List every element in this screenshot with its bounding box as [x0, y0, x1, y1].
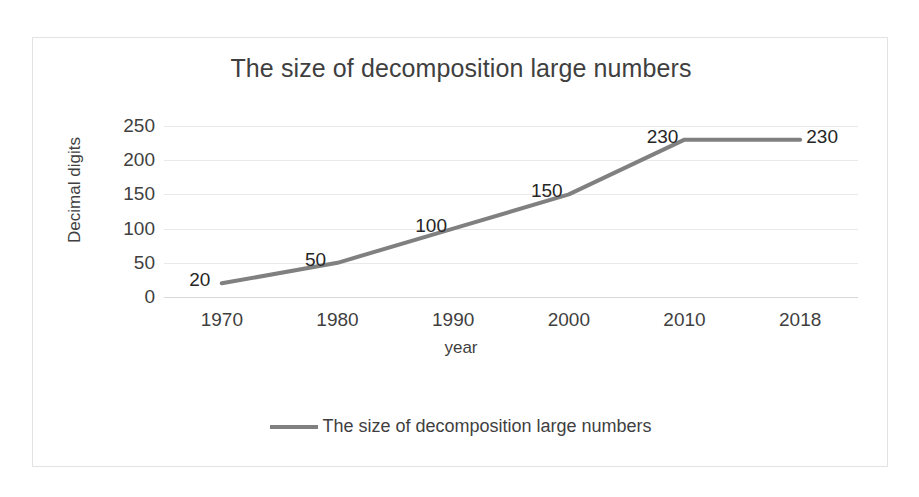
y-axis-title: Decimal digits — [65, 110, 85, 270]
x-axis-tick-label: 2000 — [548, 309, 590, 331]
chart-title: The size of decomposition large numbers — [33, 54, 889, 83]
x-axis-line — [164, 297, 858, 298]
data-point-label: 50 — [305, 249, 326, 271]
y-axis-tick-label: 250 — [123, 115, 155, 137]
x-axis-tick-label: 1970 — [201, 309, 243, 331]
data-point-label: 20 — [189, 269, 210, 291]
y-axis-tick-label: 100 — [123, 218, 155, 240]
data-point-label: 100 — [415, 215, 447, 237]
line-series — [164, 126, 858, 297]
x-axis-tick-label: 2018 — [779, 309, 821, 331]
y-axis-tick-label: 150 — [123, 183, 155, 205]
plot-area: 250200150100500 197019801990200020102018… — [164, 126, 858, 297]
x-axis-tick-label: 2010 — [663, 309, 705, 331]
x-axis-tick-label: 1980 — [316, 309, 358, 331]
legend-item: The size of decomposition large numbers — [270, 416, 651, 437]
y-axis-tick-label: 200 — [123, 149, 155, 171]
data-point-label: 230 — [806, 126, 838, 148]
legend-label: The size of decomposition large numbers — [322, 416, 651, 437]
x-axis-tick-label: 1990 — [432, 309, 474, 331]
chart-container: The size of decomposition large numbers … — [32, 37, 888, 467]
x-axis-title: year — [33, 338, 889, 358]
legend-line-swatch — [270, 425, 318, 429]
data-point-label: 230 — [647, 126, 679, 148]
y-axis-tick-label: 50 — [134, 252, 155, 274]
y-axis-tick-label: 0 — [144, 286, 155, 308]
chart-legend: The size of decomposition large numbers — [33, 416, 889, 437]
data-point-label: 150 — [531, 180, 563, 202]
